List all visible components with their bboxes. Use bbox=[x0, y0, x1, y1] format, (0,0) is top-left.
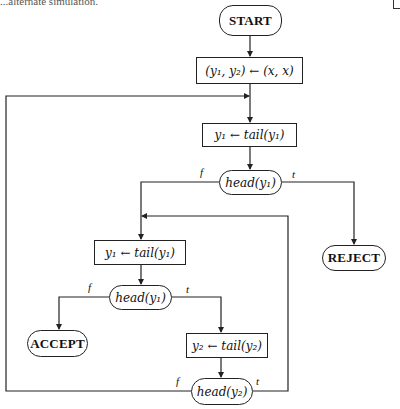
head-y1-inner-decision: head(y₁) bbox=[109, 285, 172, 310]
reject-terminal: REJECT bbox=[322, 245, 386, 271]
init-process: (y₁, y₂) ← (x, x) bbox=[196, 57, 303, 84]
tail-y1-inner-process: y₁ ← tail(y₁) bbox=[94, 240, 186, 265]
edge-label-f: f bbox=[88, 281, 91, 293]
tail-y1-process: y₁ ← tail(y₁) bbox=[202, 123, 297, 147]
edge-label-f: f bbox=[200, 166, 203, 178]
start-terminal: START bbox=[219, 5, 282, 36]
head-y1-decision: head(y₁) bbox=[219, 170, 282, 195]
accept-terminal: ACCEPT bbox=[27, 330, 88, 357]
edge-label-t: t bbox=[186, 283, 189, 295]
tail-y2-process: y₂ ← tail(y₂) bbox=[186, 333, 268, 358]
head-y2-decision: head(y₂) bbox=[191, 378, 253, 405]
edge-label-t: t bbox=[292, 168, 295, 180]
edge-label-t: t bbox=[256, 375, 259, 387]
edge-label-f: f bbox=[176, 375, 179, 387]
